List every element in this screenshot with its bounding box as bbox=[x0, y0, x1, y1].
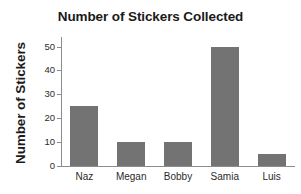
y-axis-tick-label: 20 bbox=[44, 113, 55, 123]
bar-chart-figure: Number of Stickers Collected Number of S… bbox=[0, 0, 301, 194]
y-axis-tick-label: 0 bbox=[50, 161, 55, 171]
x-axis-tick-label: Luis bbox=[248, 172, 295, 182]
x-axis-tick-label: Megan bbox=[108, 172, 155, 182]
plot-area: 01020304050 bbox=[61, 37, 295, 167]
y-axis-tick-mark bbox=[57, 166, 61, 167]
y-axis-tick-label: 30 bbox=[44, 90, 55, 100]
y-axis-tick-label: 50 bbox=[44, 42, 55, 52]
x-axis-tick-label: Bobby bbox=[155, 172, 202, 182]
bar-series bbox=[61, 37, 295, 166]
bar-slot bbox=[155, 37, 202, 166]
bar[interactable] bbox=[70, 106, 98, 166]
bar[interactable] bbox=[164, 142, 192, 166]
bar-slot bbox=[108, 37, 155, 166]
y-axis-tick-label: 40 bbox=[44, 66, 55, 76]
bar[interactable] bbox=[258, 154, 286, 166]
y-axis-label: Number of Stickers bbox=[13, 42, 28, 164]
bar[interactable] bbox=[211, 47, 239, 166]
chart-title: Number of Stickers Collected bbox=[0, 9, 301, 24]
x-axis-line bbox=[61, 166, 295, 167]
x-axis-tick-label: Samia bbox=[201, 172, 248, 182]
bar-slot bbox=[201, 37, 248, 166]
y-axis-tick-label: 10 bbox=[44, 137, 55, 147]
bar[interactable] bbox=[117, 142, 145, 166]
y-axis-label-container: Number of Stickers bbox=[9, 33, 31, 173]
x-axis-tick-label: Naz bbox=[61, 172, 108, 182]
bar-slot bbox=[248, 37, 295, 166]
bar-slot bbox=[61, 37, 108, 166]
